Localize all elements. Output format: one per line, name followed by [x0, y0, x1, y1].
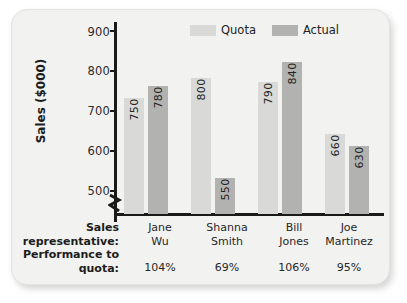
- bar-quota-joe-martinez: 660: [325, 134, 345, 214]
- category-joe-martinez-line2: Martinez: [313, 235, 385, 249]
- bar-actual-joe-martinez: 630: [349, 146, 369, 214]
- bar-actual-bill-jones: 840: [282, 62, 302, 214]
- y-tick-label-600: 600: [66, 144, 110, 158]
- bar-quota-jane-wu: 750: [124, 98, 144, 214]
- bar-value-actual-bill-jones: 840: [286, 63, 299, 85]
- y-tick-label-500: 500: [66, 184, 110, 198]
- bar-value-quota-shanna-smith: 800: [195, 79, 208, 101]
- category-shanna-smith-line2: Smith: [191, 235, 263, 249]
- bar-series-container: 750 780 800 550: [114, 22, 384, 214]
- bar-value-actual-shanna-smith: 550: [219, 179, 232, 201]
- category-shanna-smith-line1: Shanna: [191, 221, 263, 235]
- y-tick-label-900: 900: [66, 25, 110, 39]
- category-joe-martinez-line1: Joe: [313, 221, 385, 235]
- performance-joe-martinez: 95%: [313, 261, 385, 274]
- y-axis-title: Sales ($000): [34, 46, 48, 156]
- bar-quota-shanna-smith: 800: [191, 78, 211, 214]
- bar-group-bill-jones: 790 840: [258, 22, 302, 214]
- bar-value-quota-joe-martinez: 660: [329, 135, 342, 157]
- screenshot-root: Sales ($000) 900 800 700 600 500: [0, 0, 407, 303]
- category-joe-martinez: Joe Martinez: [313, 221, 385, 248]
- bar-actual-shanna-smith: 550: [215, 178, 235, 214]
- category-shanna-smith: Shanna Smith: [191, 221, 263, 248]
- y-tick-label-800: 800: [66, 64, 110, 78]
- bar-value-quota-bill-jones: 790: [262, 83, 275, 105]
- bar-quota-bill-jones: 790: [258, 82, 278, 214]
- bar-actual-jane-wu: 780: [148, 86, 168, 214]
- row-label-sales: Sales: [14, 221, 119, 235]
- bar-value-quota-jane-wu: 750: [128, 99, 141, 121]
- category-jane-wu: Jane Wu: [124, 221, 196, 248]
- performance-shanna-smith: 69%: [191, 261, 263, 274]
- table-row-labels: Sales representative: Performance to quo…: [14, 221, 119, 275]
- category-jane-wu-line2: Wu: [124, 235, 196, 249]
- y-tick-label-700: 700: [66, 104, 110, 118]
- row-label-performance: Performance to: [14, 248, 119, 262]
- category-table: Sales representative: Performance to quo…: [12, 217, 389, 284]
- bar-group-shanna-smith: 800 550: [191, 22, 235, 214]
- performance-jane-wu: 104%: [124, 261, 196, 274]
- bar-group-jane-wu: 750 780: [124, 22, 168, 214]
- bar-value-actual-joe-martinez: 630: [353, 147, 366, 169]
- bar-group-joe-martinez: 660 630: [325, 22, 369, 214]
- category-jane-wu-line1: Jane: [124, 221, 196, 235]
- row-label-quota: quota:: [14, 262, 119, 276]
- chart-card: Sales ($000) 900 800 700 600 500: [11, 9, 390, 285]
- bar-value-actual-jane-wu: 780: [152, 87, 165, 109]
- row-label-representative: representative:: [14, 235, 119, 249]
